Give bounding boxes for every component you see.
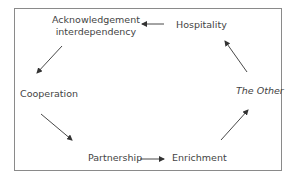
arrow-the-other-to-hospitality xyxy=(225,41,247,72)
arrow-enrichment-to-the-other xyxy=(221,110,248,140)
arrows-layer xyxy=(0,0,294,178)
arrow-acknowledgement-to-cooperation xyxy=(37,46,62,73)
arrow-cooperation-to-partnership xyxy=(41,114,72,140)
